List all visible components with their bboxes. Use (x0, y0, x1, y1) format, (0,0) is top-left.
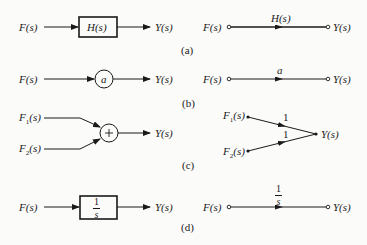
input-label-d: F(s) (19, 202, 37, 213)
output-label-d: Y(s) (155, 202, 173, 213)
block-diagram-c (44, 118, 150, 149)
integrator-denominator: s (93, 209, 100, 220)
diagram-figure: F(s) H(s) Y(s) F(s) H(s) Y(s) (a) F(s) a… (0, 0, 367, 245)
signal-flow-c (246, 115, 317, 152)
diagram-lines (0, 0, 367, 245)
output-label-b: Y(s) (155, 74, 173, 85)
output-label-a: Y(s) (155, 22, 173, 33)
sfg-input1-label-c: F1(s) (223, 110, 245, 124)
integrator-numerator: 1 (93, 197, 100, 209)
sfg-gain2-label-c: 1 (283, 129, 289, 140)
signal-flow-b (227, 77, 330, 81)
caption-a: (a) (181, 45, 193, 56)
caption-c: (c) (182, 160, 194, 171)
sfg-gain-denominator: s (275, 196, 282, 207)
caption-b: (b) (182, 98, 195, 109)
sfg-output-label-c: Y(s) (321, 129, 339, 140)
sfg-input2-label-c: F2(s) (223, 146, 245, 160)
sfg-gain-numerator: 1 (275, 184, 282, 196)
input-label-b: F(s) (19, 74, 37, 85)
sfg-output-label-b: Y(s) (333, 74, 351, 85)
sfg-input-label-b: F(s) (203, 74, 221, 85)
input1-label-c: F1(s) (19, 112, 41, 126)
sfg-input-label-a: F(s) (203, 22, 221, 33)
output-label-c: Y(s) (155, 128, 173, 139)
sfg-output-label-a: Y(s) (333, 22, 351, 33)
caption-d: (d) (181, 222, 194, 233)
integrator-fraction-d: 1 s (93, 197, 100, 220)
sfg-gain-label-a: H(s) (271, 13, 291, 24)
multiplier-label-b: a (101, 74, 107, 85)
signal-flow-a (227, 25, 330, 29)
input2-label-c: F2(s) (19, 143, 41, 157)
input-label-a: F(s) (19, 22, 37, 33)
block-diagram-b (44, 70, 150, 88)
sfg-gain1-label-c: 1 (283, 112, 289, 123)
sfg-input-label-d: F(s) (203, 202, 221, 213)
transfer-block-label-a: H(s) (87, 22, 107, 33)
sfg-output-label-d: Y(s) (333, 202, 351, 213)
sfg-gain-label-b: a (277, 65, 283, 76)
sfg-gain-fraction-d: 1 s (275, 184, 282, 207)
